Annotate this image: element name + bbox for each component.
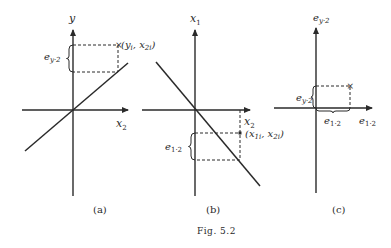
panel-a-residual-box xyxy=(73,45,118,72)
panel-b-brace xyxy=(189,133,196,160)
panel-b-x1-label: x1 xyxy=(190,12,201,27)
panel-c-e12-axis-label: e1·2 xyxy=(359,115,376,128)
panel-b-point-label: (x1i, x2i) xyxy=(245,128,284,141)
panel-a-regression-line xyxy=(25,63,128,151)
panel-c-horizontal-brace xyxy=(316,108,350,113)
figure-caption: Fig. 5.2 xyxy=(197,226,236,236)
panel-a-point-label: (yi, x2i) xyxy=(121,39,156,52)
panel-a: × y x2 ey·2 (yi, x2i) (a) xyxy=(22,12,156,215)
panel-a-y-label: y xyxy=(68,12,76,25)
panel-b-point-marker xyxy=(239,132,242,135)
figure-5-2: × y x2 ey·2 (yi, x2i) (a) x1 x2 e1·2 (x1… xyxy=(0,0,391,248)
panel-c-residual-box xyxy=(316,86,350,108)
panel-c-caption: (c) xyxy=(332,204,346,215)
panel-c-e12-residual-label: e1·2 xyxy=(324,115,341,128)
panel-a-residual-label: ey·2 xyxy=(44,51,61,64)
panel-a-x2-label: x2 xyxy=(116,117,127,132)
panel-a-caption: (a) xyxy=(93,204,107,215)
panel-c-ey2-residual-label: ey·2 xyxy=(296,92,313,105)
panel-c-ey2-axis-label: ey·2 xyxy=(313,12,330,25)
panel-b: x1 x2 e1·2 (x1i, x2i) (b) xyxy=(142,12,284,215)
panel-b-caption: (b) xyxy=(206,204,220,215)
panel-c: × ey·2 ey·2 e1·2 e1·2 (c) xyxy=(274,12,376,215)
panel-c-point-marker: × xyxy=(347,81,355,91)
panel-b-residual-label: e1·2 xyxy=(165,141,182,154)
panel-a-brace xyxy=(67,45,74,72)
